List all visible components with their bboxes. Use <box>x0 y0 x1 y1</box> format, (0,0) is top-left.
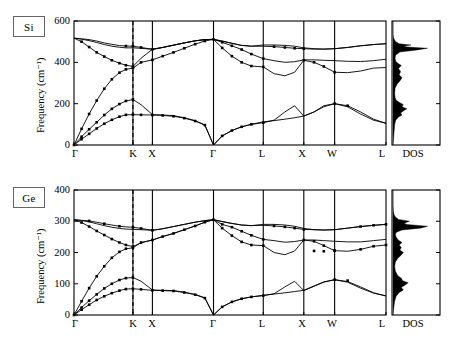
experimental-data-point <box>111 59 114 62</box>
experimental-data-point <box>194 120 197 123</box>
experimental-data-point <box>140 61 143 64</box>
experimental-data-point <box>250 296 253 299</box>
experimental-data-point <box>359 225 362 228</box>
experimental-data-point <box>240 61 243 64</box>
experimental-data-point <box>111 257 114 260</box>
experimental-data-point <box>88 225 91 228</box>
experimental-data-point <box>284 46 287 49</box>
experimental-data-point <box>240 297 243 300</box>
experimental-data-point <box>132 245 135 248</box>
experimental-data-point <box>250 244 253 247</box>
experimental-data-point <box>95 127 98 130</box>
experimental-data-point <box>111 108 114 111</box>
experimental-data-point <box>240 48 243 51</box>
experimental-data-point <box>183 291 186 294</box>
panel-si: Si Frequency (cm⁻¹) 600 400 200 0 Γ K X … <box>0 0 453 171</box>
experimental-data-point <box>118 241 121 244</box>
dos-plot-frame <box>392 21 440 145</box>
experimental-data-point <box>293 47 296 50</box>
experimental-data-point <box>125 247 128 250</box>
experimental-data-point <box>221 227 224 230</box>
experimental-data-point <box>140 288 143 291</box>
experimental-data-point <box>95 293 98 296</box>
phonon-branch-lo <box>74 38 386 62</box>
experimental-data-point <box>333 102 336 105</box>
experimental-data-point <box>385 244 388 247</box>
experimental-data-point <box>313 61 316 64</box>
experimental-data-point <box>313 240 316 243</box>
experimental-data-point <box>372 224 375 227</box>
experimental-data-point <box>125 64 128 67</box>
experimental-data-point <box>118 225 121 228</box>
experimental-data-point <box>103 265 106 268</box>
plot-area-ge <box>0 171 453 342</box>
experimental-data-point <box>204 40 207 43</box>
phonon-branch-to2 <box>74 38 386 66</box>
experimental-data-point <box>151 59 154 62</box>
experimental-data-point <box>323 250 326 253</box>
experimental-data-point <box>250 234 253 237</box>
experimental-data-point <box>125 277 128 280</box>
experimental-data-point <box>221 135 224 138</box>
experimental-data-point <box>262 66 265 69</box>
experimental-data-point <box>132 65 135 68</box>
experimental-data-point <box>212 218 215 221</box>
experimental-data-point <box>132 226 135 229</box>
experimental-data-point <box>194 293 197 296</box>
experimental-data-point <box>118 251 121 254</box>
experimental-data-point <box>240 241 243 244</box>
experimental-data-point <box>95 299 98 302</box>
experimental-data-point <box>80 128 83 131</box>
experimental-data-point <box>183 117 186 120</box>
plot-area-si <box>0 0 453 171</box>
experimental-data-point <box>88 113 91 116</box>
experimental-data-point <box>80 135 83 138</box>
experimental-data-point <box>273 45 276 48</box>
experimental-data-point <box>132 276 135 279</box>
experimental-data-point <box>161 289 164 292</box>
experimental-data-point <box>125 244 128 247</box>
experimental-data-point <box>118 279 121 282</box>
experimental-data-point <box>262 57 265 60</box>
experimental-data-point <box>132 98 135 101</box>
experimental-data-point <box>118 71 121 74</box>
band-plot-frame <box>74 21 386 145</box>
experimental-data-point <box>111 292 114 295</box>
experimental-data-point <box>183 228 186 231</box>
experimental-data-point <box>125 45 128 48</box>
experimental-data-point <box>231 301 234 304</box>
experimental-data-point <box>88 299 91 302</box>
experimental-data-point <box>125 68 128 71</box>
phonon-branch-la <box>74 39 386 145</box>
experimental-data-point <box>73 314 76 317</box>
experimental-data-point <box>262 294 265 297</box>
experimental-data-point <box>151 239 154 242</box>
phonon-branch-ta2 <box>74 278 386 316</box>
experimental-data-point <box>103 87 106 90</box>
experimental-data-point <box>262 121 265 124</box>
experimental-data-point <box>250 123 253 126</box>
experimental-data-point <box>140 46 143 49</box>
experimental-data-point <box>125 288 128 291</box>
experimental-data-point <box>221 306 224 309</box>
experimental-data-point <box>80 300 83 303</box>
experimental-data-point <box>95 99 98 102</box>
experimental-data-point <box>303 239 306 242</box>
dos-curve <box>393 190 428 315</box>
experimental-data-point <box>132 45 135 48</box>
experimental-data-point <box>262 244 265 247</box>
experimental-data-point <box>103 55 106 58</box>
experimental-data-point <box>293 227 296 230</box>
experimental-data-point <box>111 118 114 121</box>
experimental-data-point <box>151 229 154 232</box>
experimental-data-point <box>88 128 91 131</box>
experimental-data-point <box>323 65 326 68</box>
experimental-data-point <box>313 250 316 253</box>
experimental-data-point <box>346 279 349 282</box>
experimental-data-point <box>118 289 121 292</box>
experimental-data-point <box>95 51 98 54</box>
experimental-data-point <box>140 241 143 244</box>
experimental-data-point <box>125 100 128 103</box>
experimental-data-point <box>212 38 215 41</box>
experimental-data-point <box>161 55 164 58</box>
